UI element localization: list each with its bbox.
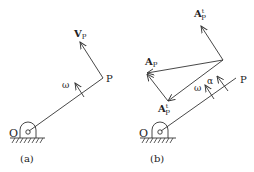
caption-b: (b) [150, 153, 164, 164]
accel-top-vector [201, 26, 223, 60]
point-label-b: P [240, 74, 247, 85]
panel-b: O P AtP AP AtP α ω (b) [139, 7, 247, 164]
pivot-label-b: O [139, 127, 148, 140]
kinematics-figure: O P VP ω (a) O P AtP [0, 0, 254, 172]
caption-a: (a) [20, 153, 34, 164]
panel-a: O P VP ω (a) [9, 28, 113, 164]
alpha-arrow-b [217, 76, 228, 91]
pivot-label-a: O [9, 127, 18, 140]
accel-closing-vector [147, 74, 168, 101]
accel-bottom-label: AtP [157, 102, 170, 117]
accel-total-vector [147, 60, 223, 73]
omega-label-b: ω [194, 83, 201, 93]
accel-bottom-vector [168, 60, 223, 101]
velocity-vector-a [80, 42, 103, 78]
accel-total-label: AP [144, 56, 158, 69]
omega-label-a: ω [62, 80, 69, 90]
accel-top-label: AtP [193, 7, 206, 22]
alpha-label-b: α [207, 76, 213, 86]
point-label-a: P [106, 73, 113, 84]
velocity-label-a: VP [73, 28, 87, 41]
